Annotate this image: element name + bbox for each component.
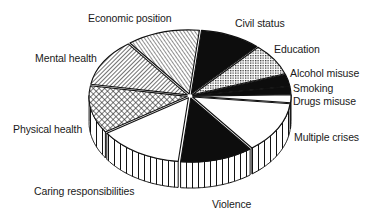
- label-caring-responsibilities: Caring responsibilities: [34, 185, 134, 197]
- label-civil-status: Civil status: [235, 17, 285, 29]
- label-alcohol-misuse: Alcohol misuse: [290, 67, 359, 79]
- label-multiple-crises: Multiple crises: [294, 131, 359, 143]
- label-mental-health: Mental health: [35, 52, 97, 64]
- label-education: Education: [274, 43, 320, 55]
- label-drugs-misuse: Drugs misuse: [293, 95, 356, 107]
- label-smoking: Smoking: [293, 82, 333, 94]
- label-physical-health: Physical health: [13, 123, 82, 135]
- pie-tops: [89, 30, 291, 162]
- label-violence: Violence: [212, 198, 251, 210]
- label-economic-position: Economic position: [88, 12, 172, 24]
